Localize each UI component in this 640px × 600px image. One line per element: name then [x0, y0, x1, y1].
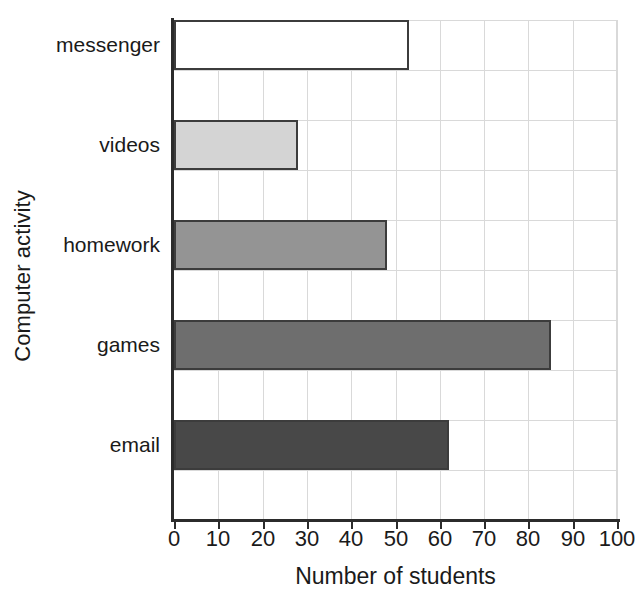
x-tick-label-70: 70	[472, 528, 496, 550]
bar-videos	[174, 120, 298, 170]
x-tick-label-50: 50	[384, 528, 408, 550]
y-axis-line	[171, 18, 174, 522]
x-tick-label-90: 90	[561, 528, 585, 550]
gridline-horizontal	[174, 70, 617, 71]
gridline-horizontal	[174, 170, 617, 171]
bar-homework	[174, 220, 387, 270]
y-tick-label-messenger: messenger	[56, 34, 160, 55]
bar-games	[174, 320, 551, 370]
x-tick-label-20: 20	[251, 528, 275, 550]
y-tick-label-homework: homework	[63, 234, 160, 255]
bar-email	[174, 420, 449, 470]
x-tick-label-30: 30	[295, 528, 319, 550]
bar-messenger	[174, 20, 409, 70]
y-axis-tick-labels: emailgameshomeworkvideosmessenger	[20, 20, 168, 520]
x-tick-label-100: 100	[599, 528, 636, 550]
x-axis-title: Number of students	[174, 563, 617, 590]
x-tick-label-60: 60	[428, 528, 452, 550]
x-tick-label-80: 80	[516, 528, 540, 550]
y-tick-label-videos: videos	[99, 134, 160, 155]
bar-chart: Computer activity emailgameshomeworkvide…	[0, 0, 640, 600]
y-tick-label-games: games	[97, 334, 160, 355]
gridline-horizontal	[174, 470, 617, 471]
gridline-horizontal	[174, 370, 617, 371]
x-tick-label-0: 0	[168, 528, 180, 550]
chart-title	[174, 0, 617, 4]
y-tick-label-email: email	[110, 434, 160, 455]
x-tick-label-40: 40	[339, 528, 363, 550]
x-tick-label-10: 10	[206, 528, 230, 550]
gridline-vertical	[617, 20, 618, 520]
plot-area	[174, 20, 617, 520]
gridline-horizontal	[174, 270, 617, 271]
